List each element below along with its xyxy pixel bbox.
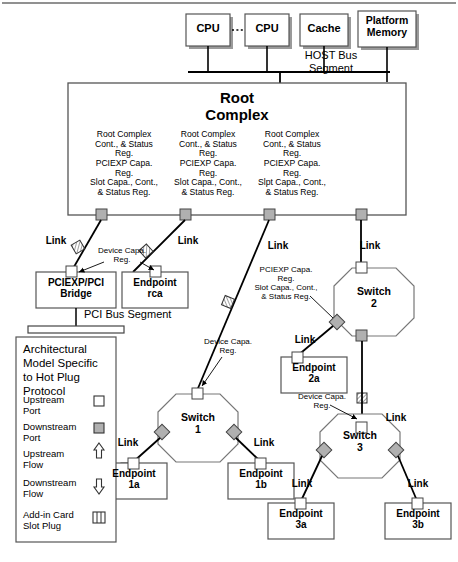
endpoint-1b-label: Endpoint 1b	[228, 468, 294, 490]
legend-item-label-slot-plug: Add-in Card Slot Plug	[23, 509, 93, 532]
root-complex-register-block-3: Root Complex Cont., & Status Reg. PCIEXP…	[238, 130, 346, 197]
switch1-label: Switch 1	[158, 412, 238, 436]
legend-item-label-downstream-flow: Downstream Flow	[23, 477, 91, 500]
legend-item-label-upstream-port: Upstream Port	[23, 394, 91, 417]
host-bus-label-line1: HOST Bus	[298, 49, 364, 61]
root-port-3	[264, 209, 275, 220]
link-label-endpoint-2a: Link	[285, 334, 325, 345]
root-complex-title: RootComplex	[68, 90, 406, 124]
link-label-switch1: Link	[258, 240, 298, 251]
link-label-endpoint-1a: Link	[108, 437, 148, 448]
link-label-bridge: Link	[36, 235, 76, 246]
endpoint-1a-label: Endpoint 1a	[101, 468, 167, 490]
pci-bus-segment-bar	[28, 326, 124, 333]
pci-bus-segment-label: PCI Bus Segment	[84, 308, 194, 320]
endpoint-3b-label: Endpoint 3b	[385, 508, 451, 530]
link-label-endpoint-1b: Link	[244, 437, 284, 448]
legend-title: Architectural Model Specific to Hot Plug…	[23, 342, 111, 398]
switch2-downstream-port-vertical	[356, 330, 367, 341]
link-label-switch2: Link	[350, 240, 390, 251]
cpu1-label: CPU	[186, 22, 230, 34]
legend-slot-plug-icon	[93, 512, 105, 523]
platform-memory-label: Platform Memory	[358, 15, 416, 39]
link-label-endpoint-rca: Link	[168, 235, 208, 246]
cache-label: Cache	[300, 22, 348, 34]
cpu2-label: CPU	[245, 22, 289, 34]
endpoint-2a-label: Endpoint 2a	[281, 362, 347, 384]
root-port-2	[180, 209, 191, 220]
link-label-switch3: Link	[376, 412, 416, 423]
legend-downstream-port-icon	[94, 423, 104, 433]
switch3-label: Switch 3	[320, 430, 400, 454]
diagram-canvas: CPU CPU Cache Platform Memory HOST Bus S…	[0, 0, 458, 562]
callout-device-capa-bridge: Device Capa. Reg.	[90, 247, 154, 265]
callout-device-capa-switch3: Device Capa. Reg.	[290, 393, 354, 411]
endpoint-3a-label: Endpoint 3a	[268, 508, 334, 530]
legend-item-label-upstream-flow: Upstream Flow	[23, 448, 91, 471]
endpoint-rca-label: Endpoint rca	[122, 277, 188, 299]
switch2-label: Switch 2	[334, 286, 414, 310]
callout-switch2-registers: PCIEXP Capa. Reg. Slot Capa., Cont., & S…	[246, 266, 326, 302]
root-port-1	[96, 209, 107, 220]
legend-item-label-downstream-port: Downstream Port	[23, 421, 91, 444]
callout-device-capa-switch1: Device Capa. Reg.	[196, 338, 260, 356]
host-bus-label-line2: Segment	[298, 62, 364, 74]
bridge-label: PCIEXP/PCI Bridge	[36, 277, 116, 299]
link-label-endpoint-3b: Link	[398, 478, 438, 489]
root-port-4	[356, 209, 367, 220]
